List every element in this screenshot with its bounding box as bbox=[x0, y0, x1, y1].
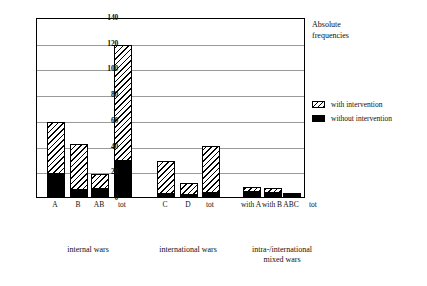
y-tick-label-60: 60 bbox=[88, 117, 118, 125]
y-tick-label-140: 140 bbox=[88, 14, 118, 22]
bar-segment-without-intervention bbox=[284, 194, 300, 197]
legend-label: without intervention bbox=[331, 114, 392, 123]
group-caption-3: intra-/international mixed wars bbox=[252, 245, 312, 265]
bar-C bbox=[157, 161, 175, 197]
legend-item: with intervention bbox=[312, 100, 392, 109]
legend-item: without intervention bbox=[312, 114, 392, 123]
chart-title: Absolute frequencies bbox=[312, 20, 349, 42]
x-tick-label-D: D bbox=[185, 201, 190, 209]
bar-with-A bbox=[243, 187, 261, 197]
bar-with-B bbox=[264, 188, 282, 197]
y-tick-label-100: 100 bbox=[88, 66, 118, 74]
chart-legend: with interventionwithout intervention bbox=[312, 100, 392, 128]
bar-segment-without-intervention bbox=[115, 160, 131, 197]
bar-tot bbox=[202, 146, 220, 197]
plot-area bbox=[37, 19, 304, 197]
bar-D bbox=[180, 183, 198, 197]
bar-segment-without-intervention bbox=[244, 191, 260, 197]
gridline-80 bbox=[37, 96, 304, 97]
y-tick-label-40: 40 bbox=[88, 143, 118, 151]
bar-segment-without-intervention bbox=[48, 173, 64, 197]
bar-segment-with-intervention bbox=[203, 147, 219, 197]
x-tick-label-AB: AB bbox=[94, 201, 104, 209]
x-tick-label-B: B bbox=[75, 201, 80, 209]
bar-segment-without-intervention bbox=[265, 192, 281, 197]
bar-segment-without-intervention bbox=[181, 194, 197, 197]
y-tick-label-80: 80 bbox=[88, 91, 118, 99]
gridline-100 bbox=[37, 70, 304, 71]
y-tick-label-20: 20 bbox=[88, 169, 118, 177]
x-tick-label-C: C bbox=[162, 201, 167, 209]
x-tick-label-with-A: with A bbox=[241, 201, 261, 209]
x-tick-label-tot: tot bbox=[118, 201, 126, 209]
x-tick-label-with-B: with B bbox=[262, 201, 282, 209]
gridline-120 bbox=[37, 45, 304, 46]
x-tick-label-tot: tot bbox=[309, 201, 317, 209]
bar-segment-without-intervention bbox=[203, 192, 219, 197]
bar-segment-with-intervention bbox=[158, 162, 174, 197]
x-tick-label-tot: tot bbox=[206, 201, 214, 209]
gridline-60 bbox=[37, 122, 304, 123]
x-tick-label-A: A bbox=[52, 201, 57, 209]
group-caption-2: international wars bbox=[159, 245, 217, 255]
chart-figure: Absolute frequencies with interventionwi… bbox=[0, 0, 427, 286]
bar-segment-without-intervention bbox=[71, 189, 87, 197]
bar-ABC bbox=[283, 193, 301, 197]
plot-frame bbox=[36, 18, 305, 198]
bar-A bbox=[47, 122, 65, 197]
y-tick-label-120: 120 bbox=[88, 40, 118, 48]
legend-label: with intervention bbox=[331, 100, 382, 109]
bar-B bbox=[70, 144, 88, 197]
bar-segment-without-intervention bbox=[158, 193, 174, 197]
legend-swatch-diagonal-hatch bbox=[312, 101, 325, 108]
group-caption-1: internal wars bbox=[67, 245, 109, 255]
x-tick-label-ABC: ABC bbox=[283, 201, 298, 209]
legend-swatch-solid bbox=[312, 115, 325, 122]
